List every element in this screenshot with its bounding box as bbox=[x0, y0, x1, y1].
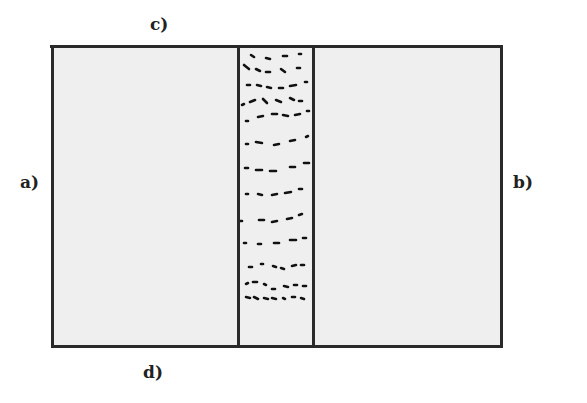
left-panel bbox=[52, 47, 239, 347]
label-d: d) bbox=[143, 362, 163, 382]
right-border bbox=[500, 45, 503, 348]
label-c: c) bbox=[150, 14, 168, 34]
stripe-left-border bbox=[237, 45, 240, 348]
left-border bbox=[51, 45, 54, 348]
right-panel bbox=[314, 47, 502, 347]
bottom-border bbox=[52, 345, 503, 348]
top-border bbox=[50, 45, 503, 48]
label-b: b) bbox=[513, 172, 533, 192]
dash-pattern bbox=[239, 47, 314, 347]
stripe-right-border bbox=[312, 45, 315, 348]
label-a: a) bbox=[20, 172, 39, 192]
